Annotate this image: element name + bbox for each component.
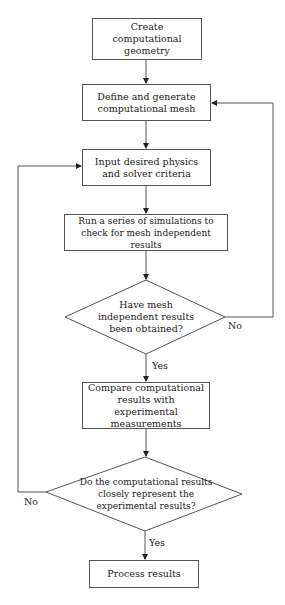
label-yes-represent: Yes: [149, 537, 165, 549]
node-process-results: Process results: [89, 560, 199, 588]
node-create-geometry: Create computational geometry: [92, 18, 202, 60]
node-text: Create computational geometry: [97, 21, 197, 57]
node-input-physics: Input desired physics and solver criteri…: [82, 149, 211, 186]
node-text: Run a series of simulations to check for…: [69, 215, 223, 251]
node-define-mesh: Define and generate computational mesh: [82, 84, 211, 121]
decision-text-mesh: Have mesh independent results been obtai…: [90, 303, 202, 331]
label-yes-mesh: Yes: [152, 360, 168, 372]
decision-text-represent: Do the computational results closely rep…: [68, 474, 224, 514]
node-text: Compare computational results with exper…: [87, 382, 205, 430]
node-text: Input desired physics and solver criteri…: [87, 156, 206, 180]
node-text: Define and generate computational mesh: [87, 91, 206, 115]
node-run-simulations: Run a series of simulations to check for…: [64, 214, 228, 251]
label-no-represent: No: [24, 496, 38, 508]
node-compare-results: Compare computational results with exper…: [82, 382, 210, 429]
node-text: Process results: [107, 568, 180, 580]
label-no-mesh: No: [228, 320, 242, 332]
